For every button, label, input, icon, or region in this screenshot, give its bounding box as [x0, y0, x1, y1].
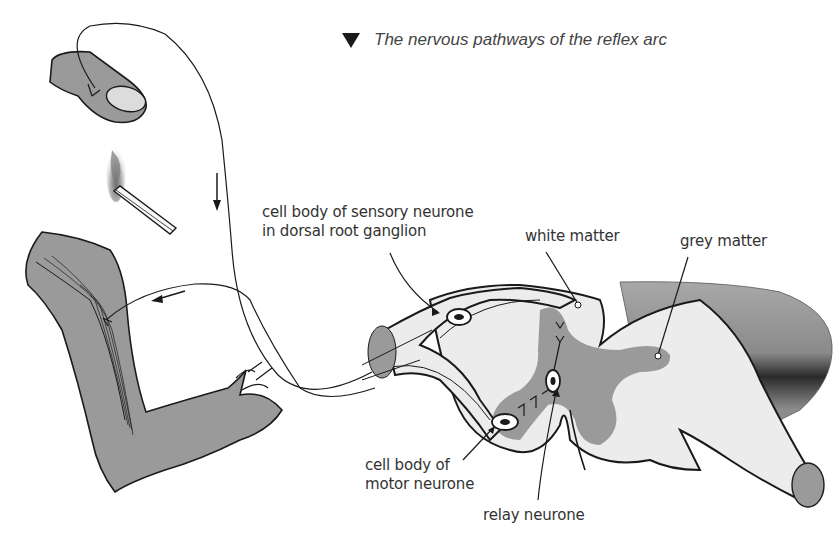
spinal-cord-body [430, 282, 832, 507]
label-relay-neurone: relay neurone [483, 506, 584, 525]
label-motor-line1: cell body of [365, 456, 474, 475]
finger-illustration [50, 52, 148, 123]
motor-cell-body [492, 414, 518, 430]
down-triangle-icon [342, 33, 360, 48]
relay-cell-body [546, 370, 560, 392]
label-sensory-line2: in dorsal root ganglion [262, 222, 473, 241]
arrow-left-icon [151, 291, 185, 303]
match-illustration [106, 142, 176, 234]
diagram-title: The nervous pathways of the reflex arc [342, 30, 667, 50]
title-text: The nervous pathways of the reflex arc [374, 30, 667, 50]
arm-illustration [26, 232, 282, 492]
label-sensory-cell-body: cell body of sensory neurone in dorsal r… [262, 203, 473, 241]
label-white-matter: white matter [525, 227, 619, 246]
arrow-down-icon [213, 173, 221, 211]
label-motor-cell-body: cell body of motor neurone [365, 456, 474, 494]
label-motor-line2: motor neurone [365, 475, 474, 494]
label-grey-matter: grey matter [680, 232, 767, 251]
sensory-cell-body [447, 309, 471, 325]
label-sensory-line1: cell body of sensory neurone [262, 203, 473, 222]
